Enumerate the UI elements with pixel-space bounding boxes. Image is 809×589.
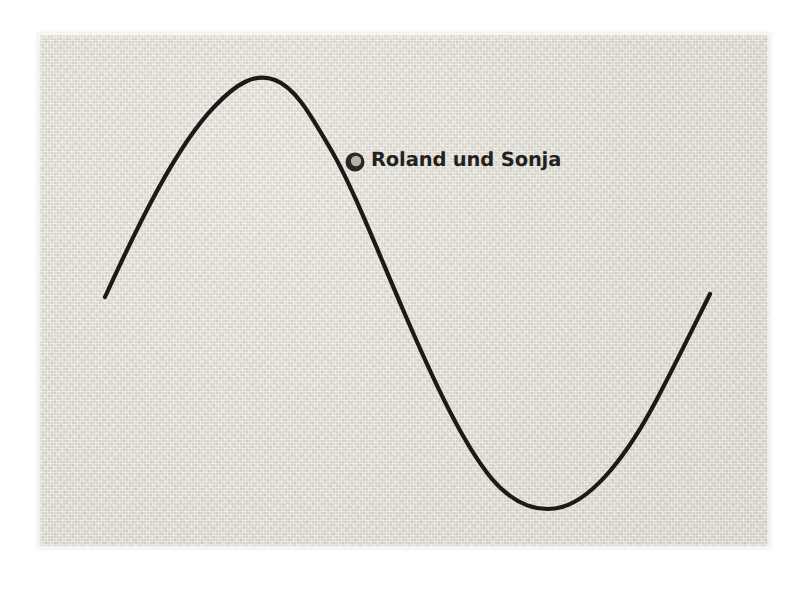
annotation-label-roland-und-sonja: Roland und Sonja <box>371 150 561 170</box>
curve-chart <box>0 0 809 589</box>
sine-curve-path <box>105 78 710 509</box>
marker-ring-inner-circle <box>351 156 361 166</box>
annotation-marker[interactable] <box>346 153 365 172</box>
figure-canvas: Roland und Sonja <box>0 0 809 589</box>
